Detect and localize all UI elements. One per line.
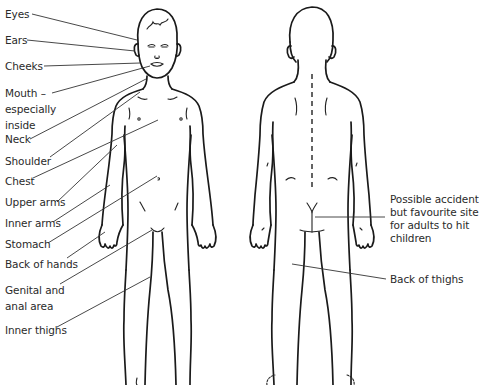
label-neck: Neck: [5, 131, 31, 147]
label-mouth-line2: especially: [5, 101, 56, 117]
label-genital-line2: anal area: [5, 298, 53, 314]
label-cheeks: Cheeks: [5, 58, 43, 74]
label-eyes: Eyes: [5, 6, 29, 22]
label-buttocks-line4: children: [390, 230, 431, 246]
label-chest: Chest: [5, 173, 35, 189]
label-shoulder: Shoulder: [5, 153, 51, 169]
label-mouth-line1: Mouth –: [5, 85, 46, 101]
label-upper-arms: Upper arms: [5, 194, 65, 210]
back-figure: [250, 7, 374, 385]
label-stomach: Stomach: [5, 236, 51, 252]
label-back-of-hands: Back of hands: [5, 256, 78, 272]
label-genital-line1: Genital and: [5, 282, 65, 298]
label-ears: Ears: [5, 32, 27, 48]
label-inner-arms: Inner arms: [5, 215, 61, 231]
label-back-of-thighs: Back of thighs: [390, 271, 463, 287]
front-figure: [99, 9, 216, 385]
label-inner-thighs: Inner thighs: [5, 322, 67, 338]
